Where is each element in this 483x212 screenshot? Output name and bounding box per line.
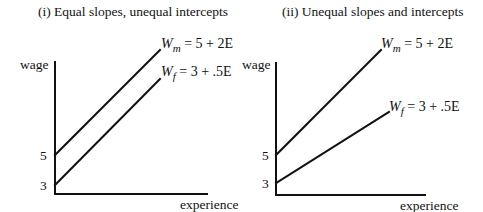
line-male-panel-2 <box>276 50 381 155</box>
line-female-panel-2 <box>276 112 389 183</box>
diagram-canvas <box>0 0 483 212</box>
line-male-panel-1 <box>55 50 160 155</box>
line-female-panel-1 <box>55 79 160 185</box>
